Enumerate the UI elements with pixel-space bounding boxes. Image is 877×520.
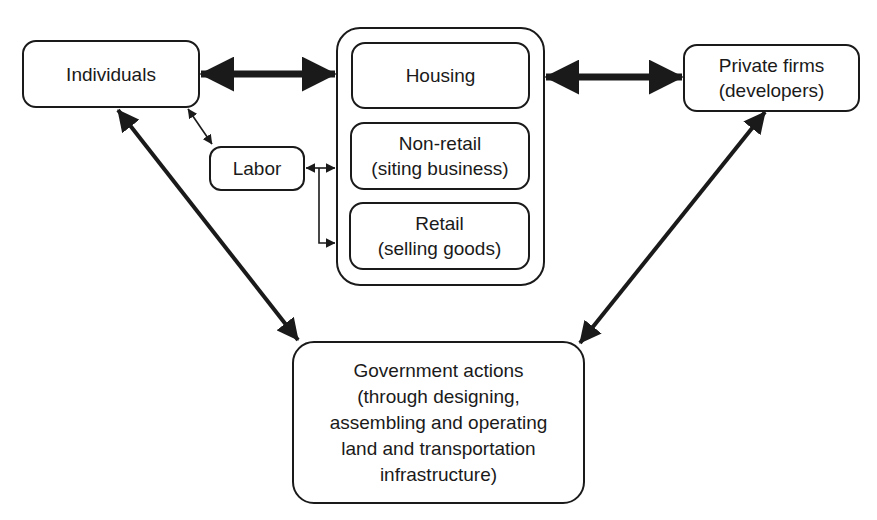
node-nonretail-subtitle: (siting business) [371, 156, 508, 181]
node-retail: Retail (selling goods) [349, 202, 530, 270]
node-nonretail-title: Non-retail [399, 131, 481, 156]
node-retail-title: Retail [415, 211, 464, 236]
node-government-line-3: assembling and operating [330, 410, 548, 436]
node-housing-label: Housing [406, 63, 476, 88]
arrow-labor-retail [319, 168, 335, 243]
arrow-individuals-government [118, 110, 298, 340]
node-government-line-2: (through designing, [357, 384, 520, 410]
node-government: Government actions (through designing, a… [292, 341, 585, 504]
node-individuals: Individuals [22, 40, 200, 108]
node-retail-subtitle: (selling goods) [378, 236, 502, 261]
arrow-private-firms-government [580, 112, 765, 343]
node-government-line-4: land and transportation [341, 436, 535, 462]
node-private-firms-title: Private firms [719, 53, 825, 78]
node-private-firms: Private firms (developers) [683, 44, 860, 112]
node-labor: Labor [209, 146, 305, 191]
node-nonretail: Non-retail (siting business) [350, 122, 530, 190]
node-private-firms-subtitle: (developers) [719, 78, 825, 103]
node-government-line-1: Government actions [353, 358, 523, 384]
node-individuals-label: Individuals [66, 62, 156, 87]
node-labor-label: Labor [233, 156, 282, 181]
node-housing: Housing [351, 42, 530, 109]
arrow-individuals-labor [188, 109, 212, 144]
node-government-line-5: infrastructure) [380, 462, 497, 488]
